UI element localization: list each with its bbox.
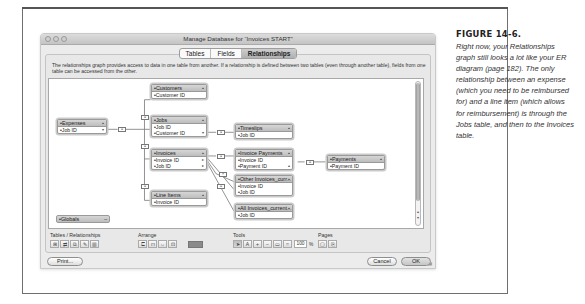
relationship-marker-invoices-other-invoices[interactable]: × — [219, 172, 227, 177]
table-occurrence-jobs[interactable]: •Jobs▪ •Job ID •Customer ID▾ — [151, 116, 207, 137]
pages-group: Pages ▢ ⎘ — [318, 232, 337, 248]
relationship-marker-customers-jobs[interactable]: = — [141, 115, 149, 120]
table-menu-icon[interactable]: ▪ — [202, 192, 204, 199]
table-menu-icon[interactable]: ▪ — [380, 156, 382, 163]
table-name: •Invoice Payments — [238, 150, 282, 156]
table-name: •Line Items — [154, 192, 181, 198]
table-name: •Payments — [330, 156, 356, 162]
table-occurrence-expenses[interactable]: •Expenses▪ •Job ID▾ — [57, 119, 107, 134]
page-breaks-icon[interactable]: ⌗ — [283, 240, 292, 248]
field-row[interactable]: •Payment ID — [328, 163, 384, 169]
table-occurrence-customers[interactable]: •Customers▪ •Customer ID — [151, 84, 207, 99]
table-name: •All Invoices_current... — [238, 205, 291, 211]
table-occurrence-invoice-payments[interactable]: •Invoice Payments▪ •Invoice ID •Payment … — [235, 149, 293, 170]
field-row[interactable]: •Job ID▾ — [58, 127, 106, 133]
relationship-marker-expenses-jobs[interactable]: = — [118, 127, 126, 132]
table-occurrence-line-items[interactable]: •Line Items▪ •Invoice ID — [151, 191, 207, 206]
edit-icon[interactable]: ✎ — [80, 240, 89, 248]
delete-icon[interactable]: ▥ — [90, 240, 99, 248]
table-menu-icon[interactable]: ▪ — [202, 150, 204, 157]
tables-relationships-group: Tables / Relationships ⊞ ⇄ ⧉ ✎ ▥ — [50, 232, 100, 248]
manage-database-window: Manage Database for “Invoices START” Tab… — [40, 33, 436, 269]
text-tool-icon[interactable]: A — [243, 240, 252, 248]
page-setup-icon[interactable]: ▢ — [318, 240, 327, 248]
table-occurrence-other-invoices[interactable]: •Other Invoices_curr...▪ •Invoice ID •Jo… — [235, 175, 293, 196]
align-left-icon[interactable]: ⊏ — [138, 240, 147, 248]
scroll-down-arrow-icon[interactable]: ▾ — [416, 216, 420, 220]
relationships-description: The relationships graph provides access … — [52, 62, 428, 75]
pointer-tool-icon[interactable]: ➤ — [233, 240, 242, 248]
scroll-up-arrow-icon[interactable]: ▴ — [416, 210, 420, 214]
zoom-in-icon[interactable]: + — [253, 240, 262, 248]
distribute-icon[interactable]: ⇔ — [158, 240, 167, 248]
resize-grip-icon[interactable]: ◢ — [428, 260, 432, 266]
table-menu-icon[interactable]: ▪ — [288, 150, 290, 157]
table-occurrence-all-invoices[interactable]: •All Invoices_current...▪ •Job ID — [235, 204, 293, 219]
relationships-graph[interactable]: = = = = = = = × = •Customers▪ •Customer … — [48, 78, 424, 229]
table-name: •Invoices — [154, 150, 176, 156]
table-occurrence-invoices[interactable]: •Invoices▪ •Invoice ID▸ •Job ID▸ — [151, 149, 207, 170]
field-row[interactable]: •Job ID — [236, 212, 292, 218]
table-name: •Globals — [59, 216, 79, 222]
relationships-panel: The relationships graph provides access … — [45, 54, 431, 253]
scroll-arrow-icon: ▾ — [102, 127, 104, 133]
tab-fields[interactable]: Fields — [211, 49, 241, 58]
field-row[interactable]: •Customer ID▾ — [152, 130, 206, 136]
resize-icon[interactable]: ⊡ — [168, 240, 177, 248]
zoom-level-field[interactable]: 100 — [294, 240, 307, 248]
table-name: •Other Invoices_curr... — [238, 176, 291, 182]
window-title: Manage Database for “Invoices START” — [41, 35, 435, 42]
figure-caption-body: Right now, your Relationships graph stil… — [456, 41, 574, 141]
figure-frame-top-rule — [22, 7, 508, 9]
figure-caption: FIGURE 14-6. Right now, your Relationshi… — [456, 29, 574, 141]
table-menu-icon[interactable]: ▪ — [288, 125, 290, 132]
tab-tables[interactable]: Tables — [180, 49, 212, 58]
fit-window-icon[interactable]: ▭ — [273, 240, 282, 248]
relationship-marker-invoice-payments-payments[interactable]: = — [306, 160, 314, 165]
arrange-group: Arrange ⊏ ⊓ ⇔ ⊡ — [138, 232, 203, 248]
graph-toolbar: Tables / Relationships ⊞ ⇄ ⧉ ✎ ▥ Arrange… — [50, 232, 430, 252]
field-row[interactable]: •Job ID — [236, 189, 292, 195]
table-name: •Expenses — [60, 120, 86, 126]
tab-relationships[interactable]: Relationships — [242, 49, 297, 58]
color-swatch[interactable] — [188, 241, 203, 248]
table-name: •Jobs — [154, 117, 167, 123]
relationship-marker-jobs-invoices[interactable]: = — [141, 144, 149, 149]
title-bar: Manage Database for “Invoices START” — [41, 34, 435, 45]
table-menu-icon[interactable]: ▪ — [288, 176, 290, 183]
collapse-icon[interactable]: – — [104, 216, 107, 223]
relationship-marker-jobs-timeslips[interactable]: = — [217, 130, 225, 135]
add-relationship-icon[interactable]: ⇄ — [60, 240, 69, 248]
scrollbar-thumb[interactable] — [416, 83, 420, 201]
field-row[interactable]: •Payment ID▴ — [236, 163, 292, 169]
figure-title: FIGURE 14-6. — [456, 29, 574, 39]
tab-group: Tables Fields Relationships — [179, 48, 298, 59]
ok-button[interactable]: OK — [401, 257, 431, 266]
relationship-marker-invoices-line-items[interactable]: = — [141, 184, 149, 189]
cancel-button[interactable]: Cancel — [367, 257, 397, 266]
table-menu-icon[interactable]: ▪ — [202, 85, 204, 92]
field-row[interactable]: •Job ID▸ — [152, 163, 206, 169]
relationship-marker-invoices-all-invoices[interactable]: = — [217, 184, 225, 189]
add-table-icon[interactable]: ⊞ — [50, 240, 59, 248]
relationship-marker-invoices-invoice-payments[interactable]: = — [217, 154, 225, 159]
align-top-icon[interactable]: ⊓ — [148, 240, 157, 248]
field-row[interactable]: •Customer ID — [152, 92, 206, 98]
table-occurrence-globals[interactable]: •Globals – — [56, 215, 110, 223]
print-button[interactable]: Print... — [47, 257, 83, 266]
scroll-arrow-icon: ▾ — [202, 130, 204, 136]
table-name: •Customers — [154, 85, 182, 91]
table-name: •Timeslips — [238, 125, 262, 131]
table-menu-icon[interactable]: ▪ — [288, 205, 290, 212]
field-row[interactable]: •Invoice ID — [152, 199, 206, 205]
vertical-scrollbar[interactable]: ▴ ▾ — [415, 81, 421, 226]
table-occurrence-payments[interactable]: •Payments▪ •Payment ID — [327, 155, 385, 170]
zoom-percent-label: % — [309, 242, 313, 247]
table-menu-icon[interactable]: ▪ — [202, 117, 204, 124]
show-pages-icon[interactable]: ⎘ — [328, 240, 337, 248]
field-row[interactable]: •Job ID — [236, 132, 292, 138]
table-menu-icon[interactable]: ▪ — [102, 120, 104, 127]
zoom-out-icon[interactable]: − — [263, 240, 272, 248]
table-occurrence-timeslips[interactable]: •Timeslips▪ •Job ID — [235, 124, 293, 139]
duplicate-icon[interactable]: ⧉ — [70, 240, 79, 248]
